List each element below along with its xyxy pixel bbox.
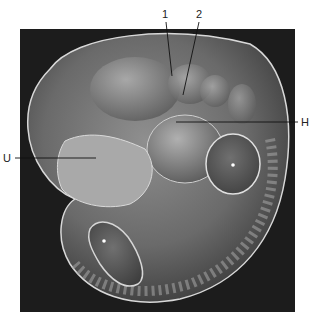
label-U: U [3,153,11,164]
leader-line-1 [166,22,172,76]
label-leader-lines [0,0,315,316]
leader-line-2 [183,22,199,95]
figure: 1 2 H U [0,0,315,316]
label-1: 1 [162,9,168,20]
label-2: 2 [196,9,202,20]
label-H: H [301,117,309,128]
